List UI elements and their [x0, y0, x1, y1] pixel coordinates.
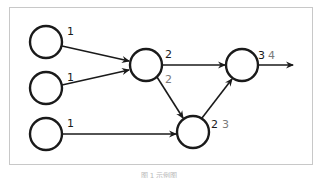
node-input-2 — [30, 72, 62, 104]
label-out-primary: 3 — [258, 49, 265, 62]
label-mid-top: 2 — [165, 48, 172, 61]
node-output — [226, 49, 258, 81]
node-middle — [130, 49, 162, 81]
label-in1: 1 — [67, 25, 74, 38]
nodes — [30, 26, 258, 150]
node-input-3 — [30, 118, 62, 150]
label-mid-bottom: 2 — [165, 73, 172, 86]
label-out-secondary: 4 — [268, 49, 275, 62]
label-in3: 1 — [67, 117, 74, 130]
node-lower — [177, 116, 209, 148]
edge-in1-mid — [62, 46, 129, 61]
edge-low-out — [202, 79, 232, 118]
figure-caption: 图 1 示例图 — [0, 170, 318, 178]
node-input-1 — [30, 26, 62, 58]
label-low-secondary: 3 — [222, 118, 229, 131]
label-in2: 1 — [67, 71, 74, 84]
label-low-primary: 2 — [211, 118, 218, 131]
flow-network-diagram: 1 1 1 2 2 3 4 2 3 — [0, 0, 318, 178]
